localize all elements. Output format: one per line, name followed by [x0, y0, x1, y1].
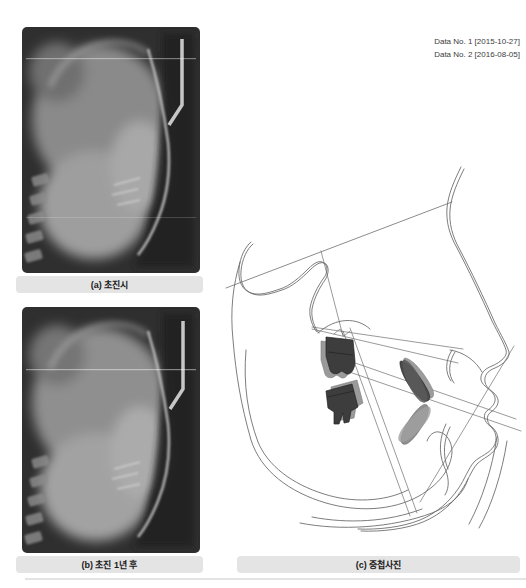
sn-line — [226, 202, 452, 288]
caption-xray-one-year-label: (b) 초진 1년 후 — [82, 558, 138, 571]
maxilla-superior-curve — [318, 320, 370, 333]
a-point-curve-1 — [447, 350, 452, 381]
data-entry-2: Data No. 2 [2016-08-05] — [434, 48, 520, 61]
mandible-lower-border-2 — [312, 509, 422, 521]
page: Data No. 1 [2015-10-27] Data No. 2 [2016… — [0, 0, 526, 588]
tooth-axis-line-2 — [350, 328, 417, 513]
nasal-floor-curve — [450, 350, 482, 372]
figure-xray-one-year — [22, 307, 200, 553]
caption-xray-one-year: (b) 초진 1년 후 — [16, 556, 203, 573]
upper-molar — [326, 337, 355, 374]
sella-outline-2 — [241, 244, 328, 333]
neck-curve-1 — [469, 437, 497, 524]
page-divider — [25, 578, 526, 580]
data-entry-1: Data No. 1 [2015-10-27] — [434, 35, 520, 48]
vertical-reference-line — [321, 251, 343, 336]
data-header: Data No. 1 [2015-10-27] Data No. 2 [2016… — [434, 35, 520, 61]
tracing-superimposition-image — [224, 160, 524, 552]
figure-xray-initial — [22, 27, 200, 273]
caption-xray-initial-label: (a) 초진시 — [91, 278, 129, 291]
xray-image-one-year — [22, 307, 200, 553]
xray-image-initial — [22, 27, 200, 273]
caption-xray-initial: (a) 초진시 — [16, 276, 203, 293]
a-point-curve-2 — [450, 352, 455, 383]
lower-incisor-2 — [398, 402, 432, 446]
profile-tracing-1 — [358, 167, 506, 529]
caption-tracing-superimposition: (c) 중첩사진 — [237, 556, 520, 573]
caption-tracing-label: (c) 중첩사진 — [356, 558, 402, 571]
b-point-curve-2 — [444, 427, 450, 469]
sella-outline-1 — [239, 242, 327, 332]
neck-curve-2 — [479, 441, 507, 528]
